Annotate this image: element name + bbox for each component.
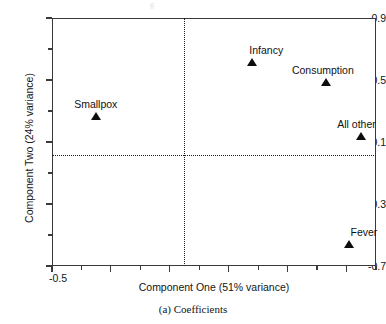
- data-point-marker: [344, 240, 354, 248]
- reference-line-horizontal: [52, 155, 376, 156]
- scan-bleed-artifact: g: [150, 0, 350, 9]
- data-point-label: Fever: [350, 227, 377, 238]
- data-point-label: Consumption: [292, 65, 354, 76]
- x-axis-tick: [375, 266, 376, 270]
- reference-line-vertical: [184, 18, 185, 266]
- data-point-label: All other: [337, 119, 376, 130]
- x-axis-title: Component One (51% variance): [52, 281, 376, 293]
- x-axis-tick: [228, 266, 229, 272]
- figure-coefficients-scatter-plot: g 0.90.50.1-0.3-0.7-0.5 InfancyConsumpti…: [0, 0, 386, 324]
- plot-frame: [52, 18, 376, 266]
- x-axis-tick: [346, 266, 347, 272]
- data-point-marker: [247, 58, 257, 66]
- x-axis-tick: [258, 266, 259, 270]
- x-axis-tick: [110, 266, 111, 272]
- y-axis-title: Component Two (24% variance): [23, 48, 35, 248]
- x-axis-tick: [140, 266, 141, 270]
- data-point-marker: [356, 132, 366, 140]
- x-axis-tick: [316, 266, 317, 270]
- figure-caption: (a) Coefficients: [0, 303, 386, 315]
- x-axis-tick: [81, 266, 82, 270]
- x-axis-tick: [169, 266, 170, 272]
- data-point-marker: [321, 78, 331, 86]
- data-point-label: Infancy: [249, 45, 283, 56]
- data-point-label: Smallpox: [74, 99, 117, 110]
- x-axis-tick: [287, 266, 288, 272]
- data-point-marker: [91, 112, 101, 120]
- x-axis-tick: [199, 266, 200, 270]
